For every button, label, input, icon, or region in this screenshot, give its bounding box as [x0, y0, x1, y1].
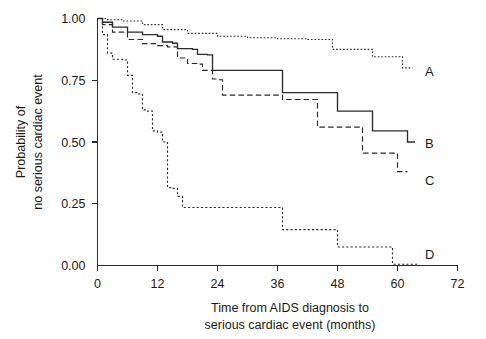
y-tick-label: 0.25 [61, 197, 85, 211]
curve-end-labels: ABCD [425, 64, 434, 262]
y-tick-label: 0.75 [61, 74, 85, 88]
x-axis-title-line1: Time from AIDS diagnosis to [211, 301, 369, 315]
y-tick-label: 0.50 [61, 136, 85, 150]
x-tick-label: 12 [151, 277, 165, 291]
x-tick-label: 48 [331, 277, 345, 291]
curve-label-a: A [425, 64, 434, 79]
tick-marks [92, 80, 458, 271]
curve-label-d: D [425, 247, 434, 262]
curve-label-b: B [425, 136, 434, 151]
chart-svg: 0.000.250.500.751.00 0122436486072 ABCD … [0, 0, 486, 339]
curve-label-c: C [425, 173, 434, 188]
y-axis-title-line1: Probability of [14, 105, 28, 178]
x-tick-label: 72 [451, 277, 465, 291]
x-axis-tick-labels: 0122436486072 [94, 277, 464, 291]
x-tick-label: 0 [94, 277, 101, 291]
axes [98, 19, 458, 266]
y-axis-title-line2: no serious cardiac event [31, 74, 45, 210]
x-tick-label: 60 [391, 277, 405, 291]
x-tick-label: 24 [211, 277, 225, 291]
x-tick-label: 36 [271, 277, 285, 291]
survival-curve-c [98, 19, 408, 172]
y-tick-label: 1.00 [61, 12, 85, 26]
survival-curve-d [98, 19, 418, 265]
survival-curve-b [98, 19, 416, 143]
survival-chart-figure: 0.000.250.500.751.00 0122436486072 ABCD … [0, 0, 486, 339]
survival-curves [98, 19, 418, 265]
x-axis-title-line2: serious cardiac event (months) [205, 318, 376, 332]
y-axis-tick-labels: 0.000.250.500.751.00 [61, 12, 85, 273]
y-tick-label: 0.00 [61, 259, 85, 273]
